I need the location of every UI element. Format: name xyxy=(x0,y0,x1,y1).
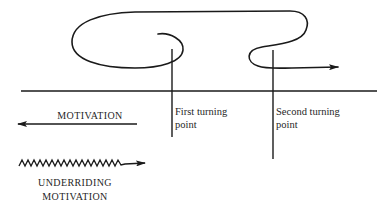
plot-line xyxy=(72,11,338,68)
second-turning-point-label: Second turning xyxy=(276,105,340,118)
motivation-label: MOTIVATION xyxy=(40,109,140,122)
underriding-motivation-label: UNDERRIDING xyxy=(20,176,130,189)
second-turning-point-label-line2: point xyxy=(276,118,298,131)
first-turning-point-label-line2: point xyxy=(175,118,197,131)
underriding-motivation-label-line2: MOTIVATION xyxy=(20,190,130,203)
underriding-motivation-arrow xyxy=(19,160,145,166)
first-turning-point-label: First turning xyxy=(175,105,227,118)
